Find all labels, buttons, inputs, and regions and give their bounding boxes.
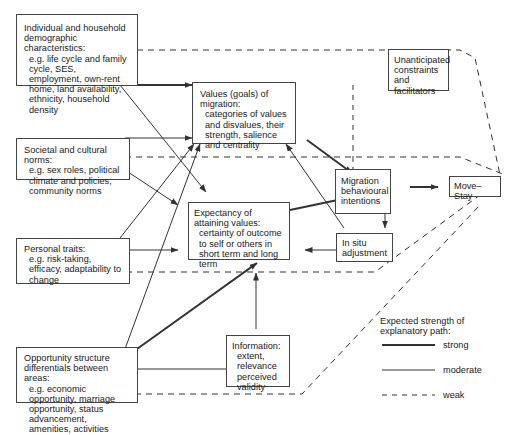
box-values-of-migration: Values (goals) of migration: categories … [192,82,296,144]
box-title: Personal traits: [24,244,123,254]
box-title: Societal and cultural norms: [24,145,123,165]
box-title: Information: [232,341,285,351]
box-body: categories of values and disvalues, thei… [200,109,289,150]
box-opportunity-structure: Opportunity structure differentials betw… [16,347,138,403]
legend-label-strong: strong [443,340,469,350]
box-personal-traits: Personal traits: e.g. risk-taking, effic… [16,238,130,284]
box-body: e.g. sex roles, political climate and po… [24,165,123,196]
box-title: Values (goals) of migration: [200,89,289,109]
legend-label-weak: weak [443,390,464,400]
box-expectancy-of-attaining-values: Expectancy of attaining values: certaint… [188,202,290,260]
legend-title: Expected strength of explanatory path: [380,316,500,336]
box-title: Opportunity structure differentials betw… [24,353,131,384]
box-body: e.g. life cycle and family cycle, SES, e… [24,54,131,115]
box-individual-demographics: Individual and household demographic cha… [16,14,138,86]
legend-label-moderate: moderate [443,365,482,375]
box-migration-intentions: Migration behavioural intentions [335,169,391,214]
box-title: In situ adjustment [342,238,388,258]
box-title: Migration behavioural intentions [341,176,386,207]
box-move-stay: Move–Stay [449,176,501,197]
box-societal-norms: Societal and cultural norms: e.g. sex ro… [16,138,130,180]
box-body: e.g. risk-taking, efficacy, adaptability… [24,254,123,285]
box-body: certainty of outcome to self or others i… [194,228,283,269]
box-in-situ-adjustment: In situ adjustment [336,233,393,262]
box-body: extent, relevance perceived validity [232,351,285,392]
box-information: Information: extent, relevance perceived… [226,335,290,387]
box-body: e.g. economic opportunity, marriage oppo… [24,384,131,435]
box-title: Unanticipated constraints and facilitato… [394,55,445,96]
box-title: Expectancy of attaining values: [194,208,283,228]
box-title: Move–Stay [454,181,497,201]
box-title: Individual and household demographic cha… [24,23,131,54]
box-unanticipated-constraints: Unanticipated constraints and facilitato… [388,49,449,91]
